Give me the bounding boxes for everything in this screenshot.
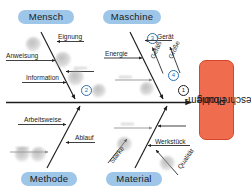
marker-2: 2	[81, 85, 92, 96]
cause-label-arbeitsweise: Arbeitsweise	[24, 116, 61, 124]
ishikawa-diagram: Mensch Maschine Methode Material Problem…	[0, 0, 251, 194]
cause-label-eignung: Eignung	[58, 33, 82, 41]
effect-box-label: Problem-beschreibung	[200, 70, 233, 130]
effect-box[interactable]: Problem-beschreibung	[199, 60, 234, 140]
cause-label-energie: Energie	[105, 50, 128, 58]
marker-3: 3	[147, 33, 158, 44]
bone-maschine	[104, 32, 180, 99]
marker-4: 4	[168, 70, 179, 81]
cause-label-obscured-1: •••••	[74, 64, 87, 72]
effect-line-2: beschreibung	[197, 95, 251, 106]
cause-label-anweisung: Anweisung	[6, 52, 38, 60]
category-material[interactable]: Material	[106, 172, 162, 186]
cause-label-obscured-2: •••••	[119, 73, 132, 81]
cause-label-obscured-4: •••••	[121, 120, 134, 128]
cause-label-obscured-3: •••••	[16, 144, 29, 152]
cause-label-geraet: Gerät	[157, 33, 174, 41]
cause-label-information: Information	[26, 74, 59, 82]
category-mensch[interactable]: Mensch	[18, 10, 74, 24]
cause-label-werkstueck: Werkstück	[155, 138, 186, 146]
category-maschine[interactable]: Maschine	[103, 10, 161, 24]
category-methode[interactable]: Methode	[21, 172, 77, 186]
cause-label-ablauf: Ablauf	[75, 134, 94, 142]
